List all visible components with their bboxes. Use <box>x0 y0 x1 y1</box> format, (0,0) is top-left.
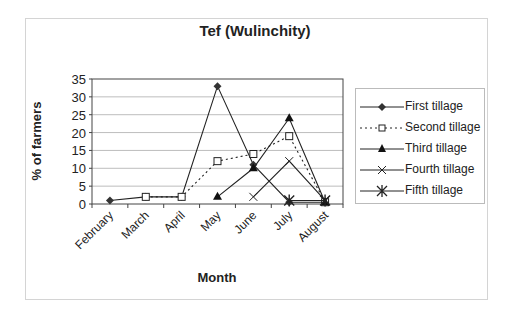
x-tick-label: April <box>161 208 188 235</box>
legend-label: Third tillage <box>405 141 467 155</box>
legend-item-fourth-tillage: Fourth tillage <box>356 160 486 180</box>
x-tick-label: August <box>295 208 332 245</box>
x-tick-label: February <box>72 208 116 252</box>
legend-label: Second tillage <box>405 120 480 134</box>
square-marker-icon <box>360 120 404 136</box>
y-tick-label: 35 <box>72 72 86 87</box>
legend-item-third-tillage: Third tillage <box>356 139 486 159</box>
series-lines <box>106 82 330 206</box>
series-third-tillage <box>213 113 330 205</box>
x-tick-label: July <box>270 208 295 233</box>
y-tick-label: 30 <box>72 90 86 105</box>
series-first-tillage <box>106 82 329 206</box>
x-tick-label: May <box>198 208 224 234</box>
legend-label: Fifth tillage <box>405 183 463 197</box>
legend-item-first-tillage: First tillage <box>356 97 486 117</box>
y-tick-label: 25 <box>72 108 86 123</box>
y-tick-label: 5 <box>79 179 86 194</box>
gridlines <box>92 97 343 186</box>
triangle-marker-icon <box>360 141 404 157</box>
x-tick-label: March <box>118 208 151 241</box>
y-tick-label: 10 <box>72 161 86 176</box>
legend-label: Fourth tillage <box>405 162 474 176</box>
legend-item-second-tillage: Second tillage <box>356 118 486 138</box>
legend: First tillage Second tillage Third tilla… <box>355 88 485 204</box>
y-tick-label: 15 <box>72 143 86 158</box>
asterisk-marker-icon <box>360 183 404 199</box>
y-tick-label: 20 <box>72 126 86 141</box>
plot-border <box>92 79 343 204</box>
y-tick-label: 0 <box>79 197 86 212</box>
x-axis-ticks: FebruaryMarchAprilMayJuneJulyAugust <box>72 204 343 252</box>
x-marker-icon <box>360 162 404 178</box>
y-axis-ticks: 05101520253035 <box>72 72 92 212</box>
x-tick-label: June <box>231 208 260 237</box>
diamond-marker-icon <box>360 99 404 115</box>
legend-item-fifth-tillage: Fifth tillage <box>356 181 486 201</box>
legend-label: First tillage <box>405 99 463 113</box>
